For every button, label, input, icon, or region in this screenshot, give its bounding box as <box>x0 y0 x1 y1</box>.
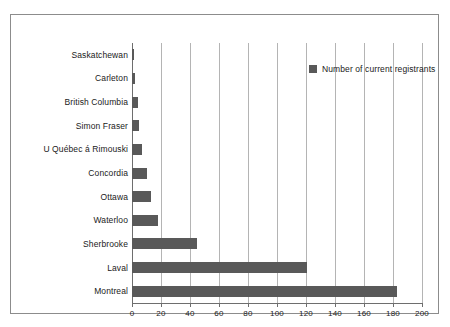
category-label: Montreal <box>94 286 128 296</box>
category-label: Waterloo <box>94 215 129 225</box>
x-axis-tick-label: 20 <box>156 309 165 318</box>
bar <box>132 144 142 155</box>
category-label: Carleton <box>95 73 128 83</box>
legend-swatch-icon <box>309 65 317 73</box>
x-axis-tick-label: 180 <box>386 309 400 318</box>
legend-label: Number of current registrants <box>322 64 435 74</box>
x-axis-tick <box>190 303 191 307</box>
x-axis-tick-label: 0 <box>130 309 135 318</box>
category-label: British Columbia <box>65 97 128 107</box>
x-axis-tick <box>306 303 307 307</box>
category-label: Simon Fraser <box>76 121 128 131</box>
x-axis-tick-label: 60 <box>214 309 223 318</box>
x-axis-tick-label: 120 <box>299 309 313 318</box>
category-label: Sherbrooke <box>83 239 128 249</box>
bar <box>132 49 134 60</box>
bar <box>132 73 135 84</box>
x-axis-tick <box>277 303 278 307</box>
bar <box>132 168 147 179</box>
x-axis-tick-label: 200 <box>415 309 429 318</box>
gridline <box>364 43 365 303</box>
x-axis-tick <box>422 303 423 307</box>
bar <box>132 262 307 273</box>
gridline <box>335 43 336 303</box>
x-axis-tick-label: 160 <box>357 309 371 318</box>
chart-frame: SaskatchewanCarletonBritish ColumbiaSimo… <box>10 14 439 314</box>
x-axis-tick <box>132 303 133 307</box>
x-axis-tick <box>393 303 394 307</box>
bar <box>132 238 197 249</box>
gridline <box>393 43 394 303</box>
bar <box>132 191 151 202</box>
x-axis-tick <box>219 303 220 307</box>
category-label: U Québec á Rimouski <box>43 144 128 154</box>
bar <box>132 97 138 108</box>
x-axis-tick-label: 100 <box>270 309 284 318</box>
x-axis-tick-label: 140 <box>328 309 342 318</box>
category-label: Ottawa <box>100 192 128 202</box>
chart-legend: Number of current registrants <box>309 64 435 74</box>
bar <box>132 120 139 131</box>
x-axis-tick-label: 40 <box>185 309 194 318</box>
x-axis-tick <box>161 303 162 307</box>
category-label: Laval <box>107 263 128 273</box>
x-axis-tick-label: 80 <box>243 309 252 318</box>
bar <box>132 215 158 226</box>
category-label: Concordia <box>88 168 128 178</box>
category-axis-labels: SaskatchewanCarletonBritish ColumbiaSimo… <box>11 43 128 303</box>
gridline <box>422 43 423 303</box>
plot-area <box>132 43 422 303</box>
x-axis-tick <box>248 303 249 307</box>
category-label: Saskatchewan <box>72 50 128 60</box>
x-axis-tick <box>335 303 336 307</box>
x-axis-tick <box>364 303 365 307</box>
bar <box>132 286 397 297</box>
